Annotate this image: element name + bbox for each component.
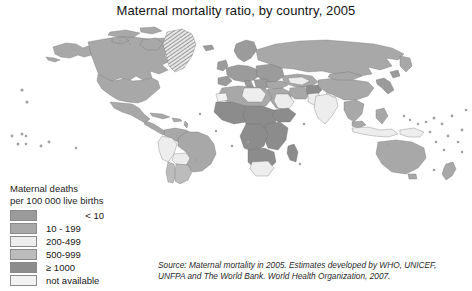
world-map bbox=[0, 24, 472, 184]
legend-item-10-199: 10 - 199 bbox=[10, 222, 170, 235]
legend-item-lt10: < 10 bbox=[10, 209, 170, 222]
legend-label-not-available: not available bbox=[46, 275, 99, 286]
legend-item-200-499: 200-499 bbox=[10, 235, 170, 248]
legend-item-not-available: not available bbox=[10, 274, 170, 287]
legend-swatch-200-499 bbox=[10, 236, 37, 247]
legend-item-gte1000: ≥ 1000 bbox=[10, 261, 170, 274]
legend-label-200-499: 200-499 bbox=[46, 236, 81, 247]
legend-label-gte1000: ≥ 1000 bbox=[46, 262, 75, 273]
legend-title: Maternal deaths per 100 000 live births bbox=[10, 183, 170, 206]
region-tasmania bbox=[408, 174, 417, 179]
legend-item-500-999: 500-999 bbox=[10, 248, 170, 261]
legend-swatch-not-available bbox=[10, 275, 37, 286]
legend-label-lt10: < 10 bbox=[46, 210, 104, 221]
legend-swatch-500-999 bbox=[10, 249, 37, 260]
legend-swatch-gte1000 bbox=[10, 262, 37, 273]
page-title: Maternal mortality ratio, by country, 20… bbox=[0, 3, 472, 18]
source-note: Source: Maternal mortality in 2005. Esti… bbox=[158, 260, 466, 281]
legend-swatch-lt10 bbox=[10, 210, 37, 221]
legend-label-500-999: 500-999 bbox=[46, 249, 81, 260]
legend: Maternal deaths per 100 000 live births … bbox=[10, 183, 170, 287]
legend-label-10-199: 10 - 199 bbox=[46, 223, 81, 234]
legend-swatch-10-199 bbox=[10, 223, 37, 234]
world-map-svg bbox=[0, 24, 472, 184]
